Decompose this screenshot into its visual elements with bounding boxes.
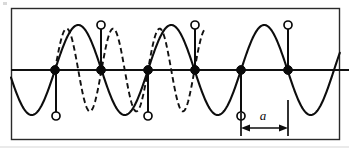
open-marker-peak-1 (97, 21, 105, 29)
sample-dot-1 (97, 66, 106, 75)
sampling-aliasing-figure: a (0, 0, 349, 153)
open-marker-peak-5 (284, 21, 292, 29)
figure-root: a (0, 0, 349, 153)
sample-dot-2 (144, 66, 153, 75)
scan-artifact-bottom-edge (0, 146, 349, 148)
open-marker-trough-0 (52, 112, 60, 120)
open-marker-peak-3 (191, 21, 199, 29)
sample-dot-4 (237, 66, 246, 75)
scan-artifact-top-left (3, 2, 7, 5)
sample-dot-5 (284, 66, 293, 75)
open-marker-trough-2 (144, 112, 152, 120)
sample-interval-label: a (260, 108, 267, 123)
sample-dot-3 (191, 66, 200, 75)
sample-dot-0 (51, 66, 60, 75)
